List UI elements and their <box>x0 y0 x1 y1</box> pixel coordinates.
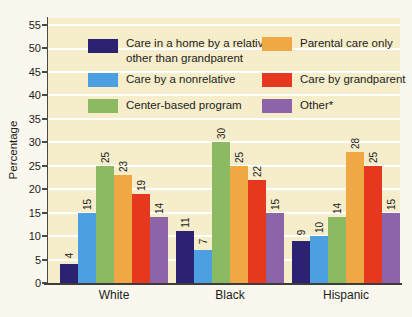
bar-value-label: 15 <box>270 191 281 217</box>
bar-value-label: 30 <box>216 121 227 147</box>
bar-value-label: 25 <box>368 144 379 170</box>
x-category-label: Hispanic <box>301 288 391 302</box>
bar <box>248 180 266 283</box>
bar-value-label: 28 <box>350 130 361 156</box>
y-tick-mark <box>42 24 47 26</box>
bar-value-label: 22 <box>252 158 263 184</box>
legend-swatch <box>262 73 292 87</box>
legend-swatch <box>88 99 118 113</box>
bar-value-label: 25 <box>100 144 111 170</box>
bar-value-label: 9 <box>296 219 307 245</box>
bar-value-label: 10 <box>314 215 325 241</box>
legend-item: Parental care only <box>262 36 393 51</box>
y-tick-mark <box>42 212 47 214</box>
bar <box>194 250 212 283</box>
bar-value-label: 15 <box>82 191 93 217</box>
y-tick-label: 5 <box>0 253 41 267</box>
y-tick-label: 0 <box>0 276 41 290</box>
legend-item: Care by a nonrelative <box>88 72 235 87</box>
legend-item: Care by grandparent <box>262 72 405 87</box>
plot-area: 415252319141173025221591014282515Care in… <box>48 18 400 283</box>
legend-label: Center-based program <box>126 98 242 113</box>
bar-value-label: 25 <box>234 144 245 170</box>
x-category-label: White <box>69 288 159 302</box>
y-tick-mark <box>42 188 47 190</box>
legend-item: Center-based program <box>88 98 242 113</box>
legend-label: Care by a nonrelative <box>126 72 235 87</box>
bar-value-label: 14 <box>332 196 343 222</box>
bar <box>346 152 364 283</box>
legend-label: Other* <box>300 98 333 113</box>
x-category-label: Black <box>185 288 275 302</box>
bar <box>78 213 96 283</box>
y-tick-mark <box>42 141 47 143</box>
bar <box>150 217 168 283</box>
bar-value-label: 11 <box>180 210 191 236</box>
bar-value-label: 7 <box>198 229 209 255</box>
legend-item: Care in a home by a relative other than … <box>88 36 284 65</box>
legend-item: Other* <box>262 98 333 113</box>
legend-swatch <box>88 39 118 53</box>
bar-value-label: 19 <box>136 172 147 198</box>
bar <box>328 217 346 283</box>
y-axis-line <box>47 17 48 284</box>
y-tick-mark <box>42 94 47 96</box>
y-tick-label: 55 <box>0 18 41 32</box>
y-tick-mark <box>42 235 47 237</box>
y-tick-mark <box>42 47 47 49</box>
legend-label: Care in a home by a relative other than … <box>126 36 284 65</box>
bar <box>230 166 248 283</box>
gridline <box>48 94 400 96</box>
y-tick-label: 40 <box>0 88 41 102</box>
y-tick-label: 15 <box>0 206 41 220</box>
figure: 415252319141173025221591014282515Care in… <box>0 0 412 317</box>
bar <box>382 213 400 283</box>
bar <box>212 142 230 283</box>
y-tick-mark <box>42 71 47 73</box>
y-axis-title: Percentage <box>7 121 19 180</box>
bar <box>176 231 194 283</box>
bar <box>292 241 310 283</box>
y-tick-mark <box>42 165 47 167</box>
y-tick-label: 10 <box>0 229 41 243</box>
y-tick-mark <box>42 259 47 261</box>
bar <box>266 213 284 283</box>
legend-label: Parental care only <box>300 36 393 51</box>
y-tick-mark <box>42 282 47 284</box>
x-axis-line <box>44 283 402 285</box>
y-tick-label: 20 <box>0 182 41 196</box>
legend-swatch <box>262 99 292 113</box>
bar <box>114 175 132 283</box>
bar <box>310 236 328 283</box>
legend-label: Care by grandparent <box>300 72 405 87</box>
bar <box>96 166 114 283</box>
bar-value-label: 14 <box>154 196 165 222</box>
gridline <box>48 24 400 26</box>
y-tick-label: 45 <box>0 65 41 79</box>
legend-swatch <box>262 37 292 51</box>
legend-swatch <box>88 73 118 87</box>
bar <box>132 194 150 283</box>
y-tick-mark <box>42 118 47 120</box>
bar-value-label: 15 <box>386 191 397 217</box>
bar-value-label: 23 <box>118 154 129 180</box>
bar <box>364 166 382 283</box>
bar-value-label: 4 <box>64 243 75 269</box>
y-tick-label: 50 <box>0 41 41 55</box>
